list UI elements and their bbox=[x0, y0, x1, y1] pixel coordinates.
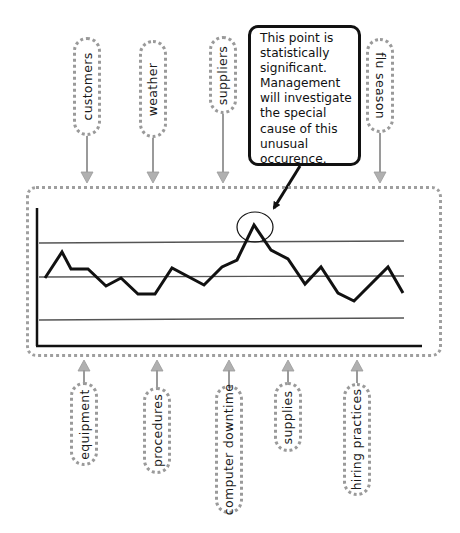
cause-pill-hiring-practices: hiring practices bbox=[343, 383, 371, 496]
arrow-down-icon bbox=[217, 172, 229, 183]
cause-label: hiring practices bbox=[350, 389, 365, 491]
arrow-up-icon bbox=[78, 360, 90, 371]
arrow-up-icon bbox=[282, 360, 294, 371]
arrow-up-icon bbox=[351, 360, 363, 371]
cause-label: customers bbox=[80, 52, 95, 120]
cause-label: weather bbox=[146, 62, 161, 115]
arrow-down-icon bbox=[147, 172, 159, 183]
arrow-up-icon bbox=[223, 360, 235, 371]
arrow-down-icon bbox=[81, 172, 93, 183]
cause-pill-computer-downtime: computer downtime bbox=[215, 385, 243, 514]
arrow-down-icon bbox=[374, 172, 386, 183]
cause-label: procedures bbox=[150, 394, 165, 467]
cause-pill-customers: customers bbox=[73, 37, 101, 136]
cause-pill-suppliers: suppliers bbox=[209, 36, 237, 114]
cause-pill-weather: weather bbox=[139, 40, 167, 138]
cause-pill-supplies: supplies bbox=[274, 382, 302, 452]
chart-frame bbox=[26, 186, 442, 357]
cause-pill-equipment: equipment bbox=[70, 382, 98, 466]
cause-label: flu season bbox=[373, 52, 388, 119]
cause-label: computer downtime bbox=[222, 384, 237, 515]
cause-pill-procedures: procedures bbox=[143, 387, 171, 474]
cause-label: suppliers bbox=[216, 45, 231, 104]
cause-pill-flu-season: flu season bbox=[366, 38, 394, 133]
cause-label: supplies bbox=[281, 390, 296, 444]
significance-callout: This point is statistically significant.… bbox=[248, 25, 361, 166]
arrow-up-icon bbox=[151, 360, 163, 371]
cause-label: equipment bbox=[77, 389, 92, 459]
callout-text: This point is statistically significant.… bbox=[260, 31, 353, 167]
